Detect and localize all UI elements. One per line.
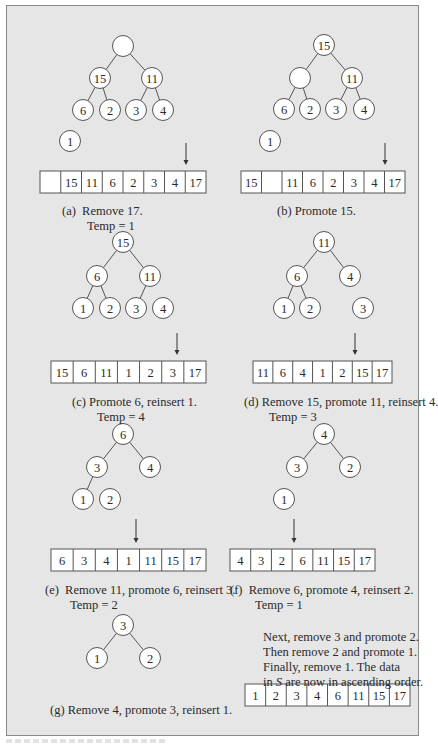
array-cell: 3 bbox=[170, 366, 176, 380]
tree-edge bbox=[87, 286, 93, 299]
tree-edge bbox=[140, 286, 146, 299]
svg-text:1: 1 bbox=[281, 302, 287, 316]
tree-node bbox=[290, 68, 311, 89]
array-cell: 15 bbox=[356, 366, 369, 380]
array-f: 4326111517 bbox=[230, 549, 375, 571]
array-cell: 17 bbox=[376, 366, 389, 380]
tree-node: 6 bbox=[113, 424, 134, 445]
svg-text:2: 2 bbox=[307, 302, 313, 316]
svg-text:1: 1 bbox=[80, 493, 86, 507]
tree-node: 2 bbox=[300, 99, 321, 120]
svg-text:4: 4 bbox=[160, 104, 167, 118]
tree-node: 1 bbox=[60, 131, 81, 152]
final-note-line-3: Finally, remove 1. The data bbox=[263, 660, 423, 675]
svg-text:3: 3 bbox=[133, 104, 139, 118]
caption-line: Temp = 4 bbox=[72, 410, 197, 425]
array-cell: 1 bbox=[125, 554, 131, 568]
tree-node: 15 bbox=[90, 68, 111, 89]
array-cell: 11 bbox=[286, 176, 298, 190]
caption-a: (a) Remove 17.Temp = 1 bbox=[62, 204, 143, 234]
caption-line: Temp = 2 bbox=[45, 598, 235, 613]
tree-edge bbox=[130, 442, 144, 459]
array-cell: 3 bbox=[151, 176, 157, 190]
svg-text:11: 11 bbox=[346, 72, 358, 86]
tree-edge bbox=[288, 286, 293, 299]
panel-g: 312 bbox=[87, 615, 161, 669]
svg-text:6: 6 bbox=[80, 104, 86, 118]
tree-node: 4 bbox=[314, 424, 335, 445]
tree-edge bbox=[330, 250, 343, 267]
tree-edge bbox=[88, 87, 95, 100]
tree-edge bbox=[103, 88, 107, 100]
caption-line: (g) Remove 4, promote 3, reinsert 1. bbox=[50, 703, 232, 718]
array-cell: 15 bbox=[65, 176, 78, 190]
final-note-line-2: Then remove 2 and promote 1. bbox=[263, 645, 423, 660]
array-cell: 17 bbox=[389, 176, 402, 190]
svg-text:1: 1 bbox=[80, 302, 86, 316]
array-cell: 2 bbox=[130, 176, 136, 190]
array-cell: 6 bbox=[299, 554, 305, 568]
caption-line: (e) Remove 11, promote 6, reinsert 3. bbox=[45, 583, 235, 598]
tree-edge bbox=[103, 250, 116, 267]
svg-text:2: 2 bbox=[147, 652, 153, 666]
tree-edge bbox=[130, 54, 145, 70]
tree-edge bbox=[356, 88, 360, 99]
array-cell: 15 bbox=[167, 554, 180, 568]
tree-edge bbox=[106, 55, 117, 70]
svg-text:2: 2 bbox=[107, 493, 113, 507]
pointer-arrow-icon bbox=[184, 143, 189, 165]
svg-text:6: 6 bbox=[94, 270, 100, 284]
array-cell: 3 bbox=[81, 554, 87, 568]
svg-text:15: 15 bbox=[117, 236, 130, 250]
tree-node: 3 bbox=[113, 615, 134, 636]
pointer-arrow-icon bbox=[292, 519, 297, 543]
array-cell: 11 bbox=[317, 554, 329, 568]
final-note-line-4: in S are now in ascending order. bbox=[263, 675, 423, 690]
pointer-arrow-icon bbox=[175, 333, 180, 355]
tree-node: 11 bbox=[342, 68, 363, 89]
caption-d: (d) Remove 15, promote 11, reinsert 4.Te… bbox=[244, 395, 438, 425]
svg-text:1: 1 bbox=[281, 493, 287, 507]
svg-text:11: 11 bbox=[144, 270, 156, 284]
tree-node: 2 bbox=[340, 457, 361, 478]
tree-edge bbox=[130, 633, 144, 650]
array-cell: 1 bbox=[319, 366, 325, 380]
tree-node: 1 bbox=[73, 489, 94, 510]
array-cell: 6 bbox=[280, 366, 286, 380]
caption-b: (b) Promote 15. bbox=[277, 204, 356, 219]
array-b: 1511623417 bbox=[241, 171, 405, 193]
caption-g: (g) Remove 4, promote 3, reinsert 1. bbox=[50, 703, 232, 718]
tree-edge bbox=[304, 442, 318, 459]
tree-node: 3 bbox=[87, 457, 108, 478]
array-cell: 1 bbox=[125, 366, 131, 380]
tree-node: 2 bbox=[100, 489, 121, 510]
pointer-arrow-icon bbox=[383, 143, 388, 165]
tree-edge bbox=[331, 53, 345, 70]
caption-line: (f) Remove 6, promote 4, reinsert 2. bbox=[230, 583, 413, 598]
array-cell: 17 bbox=[189, 176, 202, 190]
svg-text:1: 1 bbox=[267, 135, 273, 149]
tree-node: 2 bbox=[100, 100, 121, 121]
array-d: 1164121517 bbox=[253, 361, 392, 383]
svg-text:4: 4 bbox=[361, 103, 368, 117]
tree-edge bbox=[301, 286, 306, 299]
array-cell: 17 bbox=[189, 554, 202, 568]
panel-b: 1511623411511623417 bbox=[241, 35, 405, 194]
svg-text:3: 3 bbox=[120, 619, 126, 633]
tree-node: 1 bbox=[274, 489, 295, 510]
array-cell: 11 bbox=[86, 176, 98, 190]
tree-node: 11 bbox=[142, 68, 163, 89]
tree-node: 3 bbox=[287, 457, 308, 478]
tree-edge bbox=[101, 286, 106, 299]
svg-text:2: 2 bbox=[107, 302, 113, 316]
array-c: 1561112317 bbox=[51, 361, 206, 383]
caption-line: (c) Promote 6, reinsert 1. bbox=[72, 395, 197, 410]
svg-text:3: 3 bbox=[94, 461, 100, 475]
svg-text:2: 2 bbox=[347, 461, 353, 475]
array-a: 1511623417 bbox=[40, 171, 206, 193]
svg-text:4: 4 bbox=[160, 302, 167, 316]
tree-node: 3 bbox=[326, 99, 347, 120]
tree-edge bbox=[330, 442, 343, 459]
array-cell: 15 bbox=[56, 366, 69, 380]
panel-c: 1561112341561112317 bbox=[51, 232, 206, 384]
